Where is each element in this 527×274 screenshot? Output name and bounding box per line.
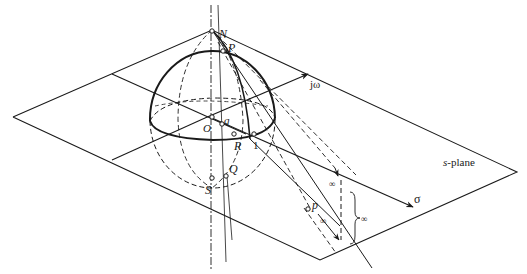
label-infinity-2: ∞ [320, 216, 326, 226]
point-p [306, 207, 310, 211]
label-jw: jω [309, 78, 320, 90]
label-N: N [218, 27, 228, 41]
label-p: p [311, 198, 318, 212]
label-infinity-3: ∞ [361, 214, 367, 224]
infinity-brace [350, 192, 360, 244]
diagram-canvas: N P O q R 1 Q S p jω σ s-plane ∞ ∞ ∞ [0, 0, 527, 274]
label-infinity-1: ∞ [329, 179, 335, 189]
label-P: P [227, 41, 236, 55]
s-plane [13, 30, 517, 260]
label-S: S [205, 183, 211, 197]
labels: N P O q R 1 Q S p jω σ s-plane ∞ ∞ ∞ [203, 27, 475, 226]
point-R [232, 132, 236, 136]
label-sigma: σ [414, 192, 421, 206]
label-R: R [233, 139, 242, 153]
point-N [210, 29, 214, 33]
point-O [210, 115, 214, 119]
label-s-plane: s-plane [443, 156, 475, 168]
point-S [210, 176, 214, 180]
riemann-sphere [150, 30, 275, 188]
point-P [221, 49, 225, 53]
label-Q: Q [229, 162, 238, 176]
riemann-sphere-diagram: N P O q R 1 Q S p jω σ s-plane ∞ ∞ ∞ [0, 0, 527, 274]
label-one: 1 [253, 139, 259, 151]
point-Q [224, 174, 228, 178]
label-O: O [203, 122, 211, 134]
label-q: q [224, 114, 230, 126]
point-1 [252, 132, 256, 136]
